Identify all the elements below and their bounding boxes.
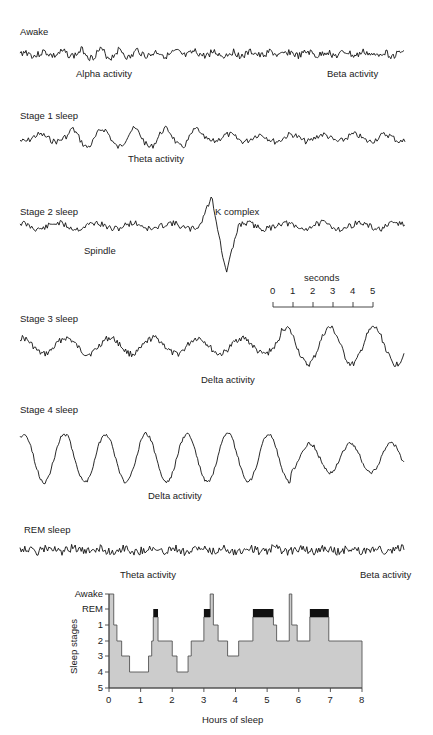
- x-tick-label: 5: [264, 694, 269, 705]
- y-axis-title: Sleep stages: [68, 612, 79, 682]
- x-tick-label: 4: [233, 694, 238, 705]
- annotation-spindle: Spindle: [84, 245, 116, 256]
- eeg-trace-stage4: [0, 420, 433, 500]
- y-tick-label: 2: [98, 635, 103, 646]
- eeg-trace-stage1: [0, 120, 433, 160]
- x-tick-label: 8: [359, 694, 364, 705]
- stage-title-stage4: Stage 4 sleep: [20, 404, 78, 415]
- annotation-beta-activity-rem: Beta activity: [360, 569, 411, 580]
- y-tick-label: 4: [98, 666, 103, 677]
- y-tick-label: Awake: [75, 588, 103, 599]
- stage-title-rem: REM sleep: [24, 524, 70, 535]
- x-axis-title: Hours of sleep: [202, 714, 263, 725]
- annotation-theta-activity: Theta activity: [128, 153, 184, 164]
- x-tick-label: 0: [106, 694, 111, 705]
- annotation-delta-activity-stage4: Delta activity: [148, 490, 202, 501]
- x-tick-label: 1: [138, 694, 143, 705]
- x-tick-label: 7: [327, 694, 332, 705]
- y-tick-label: 3: [98, 650, 103, 661]
- stage-title-awake: Awake: [20, 26, 48, 37]
- eeg-trace-rem: [0, 538, 433, 568]
- x-tick-label: 6: [296, 694, 301, 705]
- x-tick-label: 3: [201, 694, 206, 705]
- y-tick-label: REM: [82, 603, 103, 614]
- hypnogram-plot: [60, 585, 380, 735]
- annotation-k-complex: K complex: [215, 206, 259, 217]
- y-tick-label: 5: [98, 682, 103, 693]
- time-scale-bar: seconds 0 1 2 3 4 5: [268, 272, 380, 312]
- annotation-theta-activity-rem: Theta activity: [120, 569, 176, 580]
- scale-bar-line: [268, 272, 380, 312]
- annotation-delta-activity-stage3: Delta activity: [201, 374, 255, 385]
- hypnogram-chart: Sleep stages Hours of sleep AwakeREM1234…: [60, 585, 380, 735]
- x-tick-label: 2: [169, 694, 174, 705]
- annotation-beta-activity: Beta activity: [327, 68, 378, 79]
- y-tick-label: 1: [98, 619, 103, 630]
- annotation-alpha-activity: Alpha activity: [76, 68, 132, 79]
